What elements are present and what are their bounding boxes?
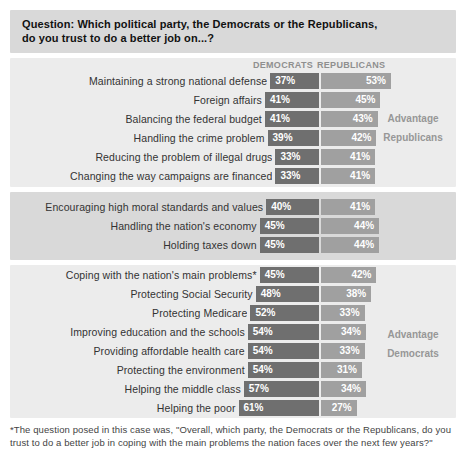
democrats-bar: 41%	[265, 111, 319, 127]
column-header-democrats: DEMOCRATS	[253, 60, 313, 70]
poll-row: Coping with the nation's main problems*4…	[10, 267, 456, 283]
issue-label: Changing the way campaigns are financed	[10, 170, 272, 182]
question-line-2: do you trust to do a better job on...?	[22, 31, 444, 45]
rows-section-2: Encouraging high moral standards and val…	[10, 199, 456, 253]
row-right-spacer	[357, 400, 456, 416]
republicans-bar: 41%	[321, 149, 375, 165]
section-advantage-republicans: DEMOCRATS REPUBLICANS Maintaining a stro…	[10, 58, 456, 187]
advantage-line-2: Republicans	[370, 128, 456, 147]
democrats-bar: 45%	[260, 267, 319, 283]
row-right-spacer	[366, 381, 456, 397]
democrats-bar: 40%	[266, 199, 319, 215]
republicans-bar: 33%	[321, 343, 365, 359]
democrats-bar: 41%	[265, 92, 319, 108]
democrats-bar: 45%	[260, 218, 319, 234]
democrats-bar: 54%	[248, 343, 319, 359]
issue-label: Handling the crime problem	[10, 132, 265, 144]
row-right-spacer	[380, 92, 456, 108]
poll-row: Encouraging high moral standards and val…	[10, 199, 456, 215]
republicans-bar: 34%	[321, 381, 366, 397]
republicans-bar: 41%	[321, 168, 375, 184]
poll-row: Protecting the environment54%31%	[10, 362, 456, 378]
advantage-line-2: Democrats	[370, 344, 456, 363]
issue-label: Maintaining a strong national defense	[10, 75, 267, 87]
issue-label: Balancing the federal budget	[10, 113, 262, 125]
republicans-bar: 31%	[321, 362, 362, 378]
issue-label: Providing affordable health care	[10, 345, 245, 357]
row-right-spacer	[371, 286, 456, 302]
section-advantage-democrats: Coping with the nation's main problems*4…	[10, 265, 456, 418]
republicans-bar: 34%	[321, 324, 366, 340]
poll-row: Reducing the problem of illegal drugs33%…	[10, 149, 456, 165]
democrats-bar: 33%	[275, 149, 319, 165]
democrats-bar: 39%	[268, 130, 319, 146]
issue-label: Helping the middle class	[10, 383, 241, 395]
row-right-spacer	[391, 73, 456, 89]
row-right-spacer	[375, 168, 456, 184]
poll-row: Protecting Medicare52%33%	[10, 305, 456, 321]
row-right-spacer	[362, 362, 456, 378]
poll-row: Protecting Social Security48%38%	[10, 286, 456, 302]
issue-label: Improving education and the schools	[10, 326, 245, 338]
issue-label: Handling the nation's economy	[10, 220, 257, 232]
republicans-bar: 42%	[321, 267, 376, 283]
advantage-line-1: Advantage	[370, 325, 456, 344]
poll-row: Holding taxes down45%44%	[10, 237, 456, 253]
poll-figure: Question: Which political party, the Dem…	[10, 0, 456, 449]
democrats-bar: 61%	[239, 400, 320, 416]
row-right-spacer	[379, 218, 456, 234]
issue-label: Coping with the nation's main problems*	[10, 269, 257, 281]
row-right-spacer	[365, 305, 456, 321]
republicans-bar: 53%	[321, 73, 391, 89]
republicans-bar: 42%	[321, 130, 376, 146]
issue-label: Holding taxes down	[10, 239, 257, 251]
issue-label: Protecting Medicare	[10, 307, 247, 319]
section-middle: Encouraging high moral standards and val…	[10, 192, 456, 260]
column-header-republicans: REPUBLICANS	[317, 60, 385, 70]
poll-row: Helping the middle class57%34%	[10, 381, 456, 397]
question-line-1: Question: Which political party, the Dem…	[22, 17, 444, 31]
democrats-bar: 48%	[256, 286, 319, 302]
poll-row: Changing the way campaigns are financed3…	[10, 168, 456, 184]
democrats-bar: 54%	[248, 362, 319, 378]
poll-row: Maintaining a strong national defense37%…	[10, 73, 456, 89]
advantage-annotation: AdvantageRepublicans	[370, 109, 456, 147]
democrats-bar: 45%	[260, 237, 319, 253]
issue-label: Encouraging high moral standards and val…	[10, 201, 263, 213]
advantage-annotation: AdvantageDemocrats	[370, 325, 456, 363]
issue-label: Foreign affairs	[10, 94, 262, 106]
row-right-spacer	[375, 149, 456, 165]
issue-label: Protecting Social Security	[10, 288, 253, 300]
democrats-bar: 54%	[248, 324, 319, 340]
issue-label: Reducing the problem of illegal drugs	[10, 151, 272, 163]
column-headers: DEMOCRATS REPUBLICANS	[10, 60, 456, 71]
row-right-spacer	[375, 199, 456, 215]
republicans-bar: 41%	[321, 199, 375, 215]
question-header: Question: Which political party, the Dem…	[10, 10, 456, 53]
row-right-spacer	[376, 267, 456, 283]
footnote: *The question posed in this case was, "O…	[10, 423, 456, 449]
democrats-bar: 33%	[275, 168, 319, 184]
republicans-bar: 44%	[321, 237, 379, 253]
poll-row: Helping the poor61%27%	[10, 400, 456, 416]
republicans-bar: 45%	[321, 92, 380, 108]
democrats-bar: 37%	[270, 73, 319, 89]
advantage-line-1: Advantage	[370, 109, 456, 128]
poll-row: Foreign affairs41%45%	[10, 92, 456, 108]
poll-row: Handling the nation's economy45%44%	[10, 218, 456, 234]
republicans-bar: 33%	[321, 305, 365, 321]
row-right-spacer	[379, 237, 456, 253]
republicans-bar: 44%	[321, 218, 379, 234]
republicans-bar: 27%	[321, 400, 357, 416]
democrats-bar: 57%	[244, 381, 319, 397]
issue-label: Helping the poor	[10, 402, 236, 414]
democrats-bar: 52%	[250, 305, 319, 321]
republicans-bar: 38%	[321, 286, 371, 302]
issue-label: Protecting the environment	[10, 364, 245, 376]
